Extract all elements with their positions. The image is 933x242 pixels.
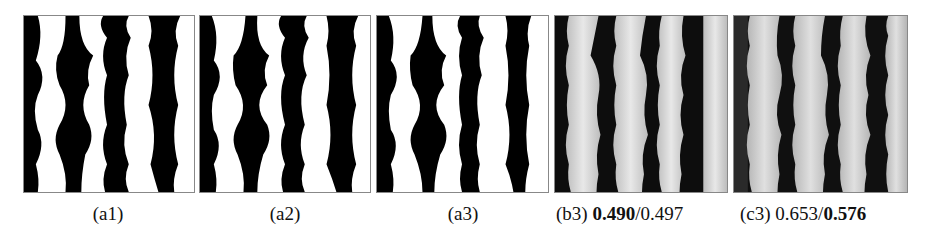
- caption-label: (b3): [556, 203, 588, 224]
- metric-value: 0.497: [640, 203, 683, 224]
- caption-c3: (c3) 0.653/0.576: [740, 203, 866, 225]
- panel-a3: [376, 15, 549, 193]
- caption-a3: (a3): [433, 203, 493, 225]
- binary-pattern-image: [377, 16, 548, 192]
- grayscale-pattern-image: [734, 16, 907, 192]
- caption-a1: (a1): [78, 203, 138, 225]
- caption-b3: (b3) 0.490/0.497: [556, 203, 683, 225]
- binary-pattern-image: [200, 16, 370, 192]
- binary-pattern-image: [24, 16, 194, 192]
- caption-a2: (a2): [255, 203, 315, 225]
- panel-a1: [23, 15, 195, 193]
- metric-value-best: 0.576: [823, 203, 866, 224]
- metric-value: 0.653: [775, 203, 818, 224]
- panel-c3: [733, 15, 908, 193]
- metric-value-best: 0.490: [592, 203, 635, 224]
- grayscale-pattern-image: [555, 16, 727, 192]
- panel-a2: [199, 15, 371, 193]
- caption-label: (c3): [740, 203, 771, 224]
- panel-b3: [554, 15, 728, 193]
